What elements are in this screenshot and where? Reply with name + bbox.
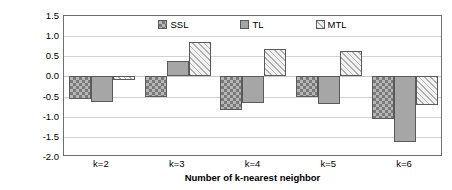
bar-chart: Micro-F1 % improvement over STL for HD d… <box>0 0 452 190</box>
plot-area: SSLTLMTL <box>63 15 442 156</box>
y-axis-tick-label: 0.0 <box>46 70 59 81</box>
bar-group <box>216 16 292 155</box>
bar-ssl-k4 <box>220 76 242 109</box>
x-axis-tick-label: k=3 <box>169 158 185 169</box>
y-axis-tick-label: -1.0 <box>43 110 59 121</box>
bar-tl-k6 <box>394 76 416 142</box>
bar-ssl-k2 <box>69 76 91 99</box>
x-axis-tick-label: k=4 <box>245 158 261 169</box>
bar-mtl-k4 <box>264 49 286 76</box>
bar-group <box>367 16 443 155</box>
x-axis-tick-labels: k=2k=3k=4k=5k=6 <box>63 158 442 172</box>
y-axis-tick-label: -2.0 <box>43 151 59 162</box>
y-axis-tick-label: 1.0 <box>46 30 59 41</box>
bars-layer <box>64 16 441 155</box>
x-axis-tick-label: k=2 <box>93 158 109 169</box>
y-axis-tick-label: 0.5 <box>46 50 59 61</box>
bar-group <box>64 16 140 155</box>
bar-mtl-k6 <box>416 76 438 104</box>
bar-group <box>140 16 216 155</box>
bar-mtl-k5 <box>340 51 362 76</box>
bar-tl-k3 <box>167 61 189 76</box>
bar-tl-k2 <box>91 76 113 101</box>
y-axis-tick-label: -1.5 <box>43 130 59 141</box>
y-axis-tick-label: 1.5 <box>46 10 59 21</box>
y-axis-title: Micro-F1 % improvement over STL for HD d… <box>0 0 36 168</box>
bar-ssl-k6 <box>372 76 394 118</box>
bar-mtl-k3 <box>189 42 211 77</box>
bar-tl-k5 <box>318 76 340 103</box>
y-axis-tick-label: -0.5 <box>43 90 59 101</box>
x-axis-tick-label: k=6 <box>396 158 412 169</box>
x-axis-title: Number of k-nearest neighbor <box>63 172 442 183</box>
x-axis-tick-label: k=5 <box>321 158 337 169</box>
bar-ssl-k3 <box>145 76 167 97</box>
bar-group <box>291 16 367 155</box>
bar-mtl-k2 <box>113 76 135 79</box>
bar-tl-k4 <box>242 76 264 103</box>
y-axis-tick-labels: 1.51.00.50.0-0.5-1.0-1.5-2.0 <box>36 14 62 156</box>
bar-ssl-k5 <box>296 76 318 96</box>
